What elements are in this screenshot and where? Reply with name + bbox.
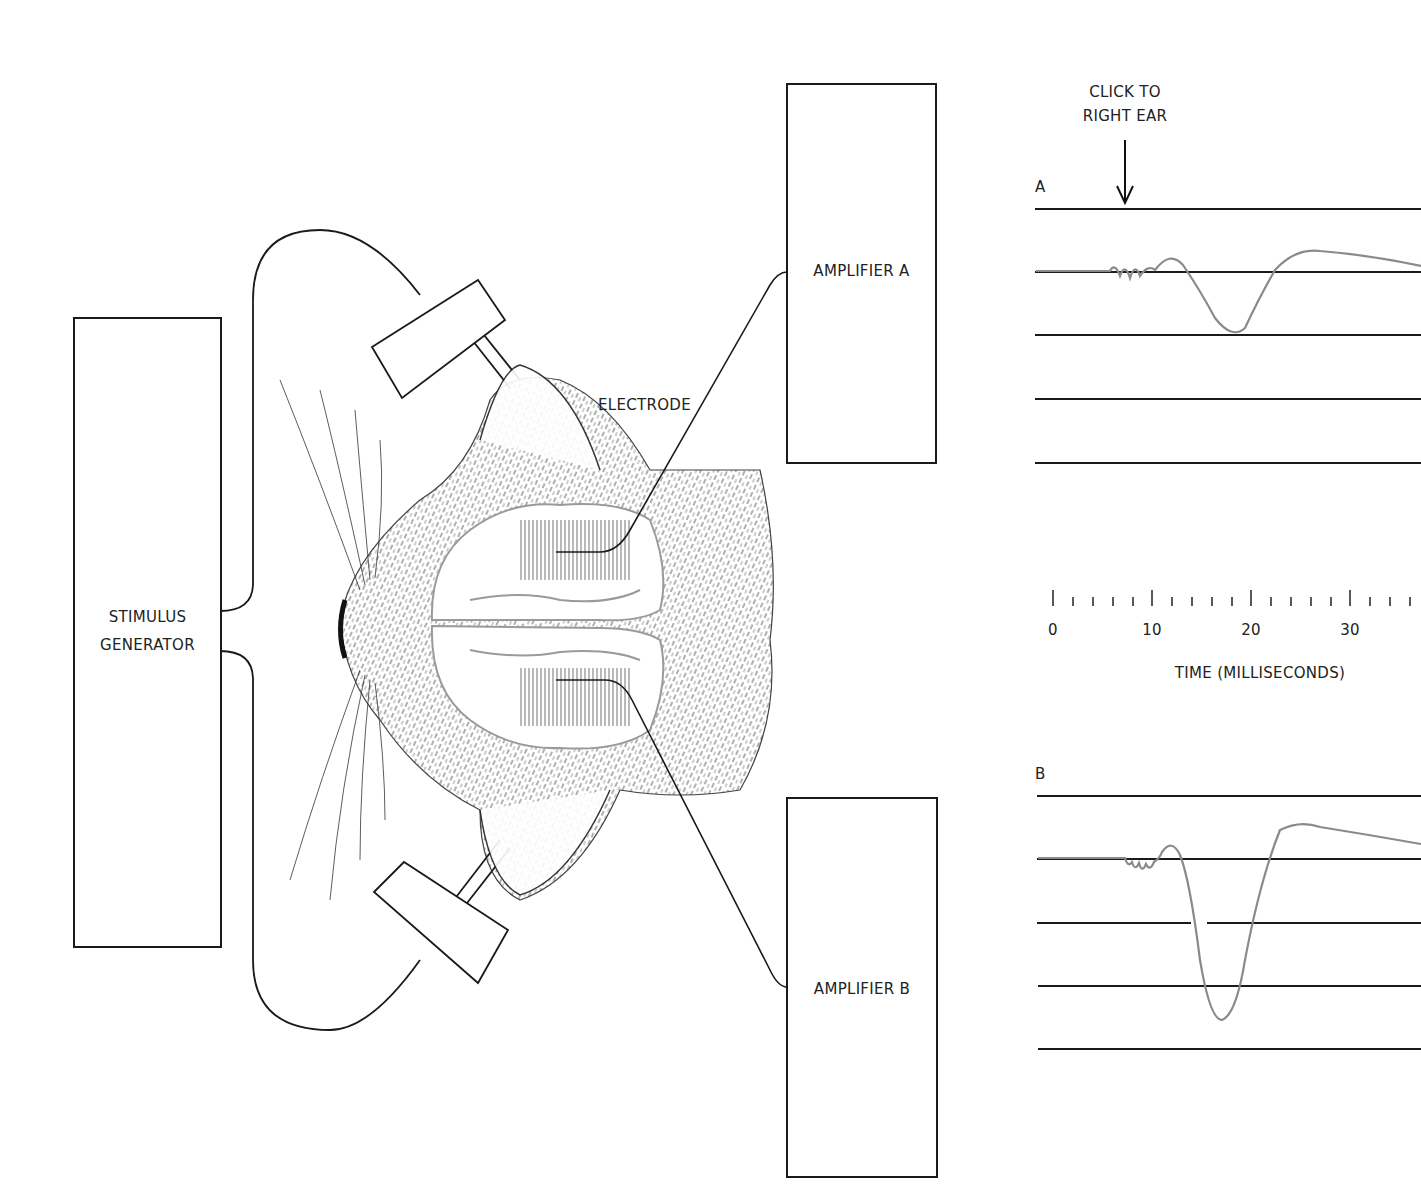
stimulus-arrow-icon bbox=[1117, 140, 1133, 203]
time-tick-20: 20 bbox=[1236, 621, 1266, 639]
time-axis-label: TIME (MILLISECONDS) bbox=[1160, 664, 1360, 682]
amplifier-a-label: AMPLIFIER A bbox=[786, 262, 937, 280]
time-tick-10: 10 bbox=[1137, 621, 1167, 639]
electrode-label: ELECTRODE bbox=[598, 396, 691, 414]
auditory-cortex-left-hatch bbox=[520, 520, 630, 580]
trace-a-label: A bbox=[1035, 178, 1046, 196]
earphone-top bbox=[372, 280, 520, 398]
click-annotation-line2: RIGHT EAR bbox=[1070, 107, 1180, 125]
auditory-cortex-right-hatch bbox=[520, 668, 630, 726]
stimulus-generator-label-line1: STIMULUS bbox=[73, 608, 222, 626]
trace-b-label: B bbox=[1035, 765, 1046, 783]
trace-a-waveform bbox=[1036, 251, 1421, 333]
stimulus-generator-box bbox=[73, 317, 222, 948]
time-axis bbox=[1053, 590, 1410, 606]
time-tick-0: 0 bbox=[1043, 621, 1063, 639]
stimulus-generator-label-line2: GENERATOR bbox=[73, 636, 222, 654]
amplifier-b-label: AMPLIFIER B bbox=[786, 980, 938, 998]
trace-panel-a-grid bbox=[1035, 209, 1421, 463]
time-tick-30: 30 bbox=[1335, 621, 1365, 639]
click-annotation-line1: CLICK TO bbox=[1070, 83, 1180, 101]
